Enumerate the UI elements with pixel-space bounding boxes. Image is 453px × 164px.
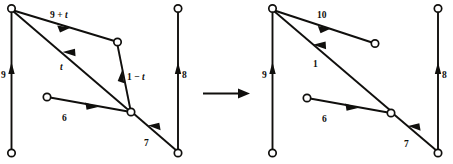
right-panel-label-9: 9 [262, 70, 267, 80]
left-panel-node-bottom-left [8, 149, 15, 156]
right-panel-edge-long-diagonal [275, 12, 392, 112]
right-panel-node-top-right [434, 5, 441, 12]
arrowhead-up-icon [435, 62, 441, 74]
right-panel-node-junction [387, 109, 394, 116]
transition-arrow [203, 88, 250, 98]
right-panel-node-bottom-right [434, 149, 441, 156]
left-panel-node-bottom-right [174, 149, 181, 156]
right-panel: 9 10 1 6 7 8 [262, 5, 447, 157]
left-panel-edge-long-diagonal [14, 12, 130, 111]
right-panel-label-7: 7 [404, 139, 409, 149]
left-panel-label-t: t [60, 62, 63, 72]
arrowhead-up-icon [8, 62, 14, 74]
arrowhead-up-icon [269, 62, 275, 74]
left-panel-label-9-plus-t: 9 + t [50, 10, 68, 20]
left-panel-node-upper-middle [114, 38, 121, 45]
right-panel-node-bottom-left [269, 149, 276, 156]
arrowhead-upleft-icon [313, 42, 326, 50]
left-panel-edge-right-vertical [175, 11, 181, 151]
right-panel-edge-lower-right [394, 114, 438, 151]
left-panel-label-1-minus-t: 1 − t [127, 72, 145, 82]
left-panel-edge-lower-right [134, 114, 178, 152]
right-panel-label-10: 10 [317, 10, 327, 20]
left-panel-node-junction [127, 108, 134, 115]
right-panel-node-free-left [303, 94, 310, 101]
right-panel-edge-right-vertical [435, 11, 441, 151]
left-panel-node-top-left [8, 5, 15, 12]
arrowhead-right-icon [238, 88, 250, 98]
right-panel-node-upper-middle [371, 40, 378, 47]
right-panel-edge-left-vertical [269, 11, 275, 151]
right-panel-node-top-left [269, 5, 276, 12]
right-panel-edge-lower-left [310, 99, 388, 113]
left-panel-label-7: 7 [144, 138, 149, 148]
left-panel-node-top-right [174, 5, 181, 12]
right-panel-label-1: 1 [313, 59, 318, 69]
left-panel-node-free-left [43, 93, 50, 100]
left-panel-edge-left-vertical [8, 11, 14, 151]
left-panel: 9 9 + t t 1 − t 6 7 [1, 5, 187, 157]
right-panel-label-6: 6 [322, 114, 327, 124]
left-panel-label-8: 8 [182, 70, 187, 80]
left-panel-label-6: 6 [62, 113, 67, 123]
arrowhead-up-icon [175, 62, 181, 74]
figure-canvas: 9 9 + t t 1 − t 6 7 [0, 0, 453, 164]
left-panel-label-9: 9 [1, 70, 6, 80]
right-panel-label-8: 8 [442, 70, 447, 80]
